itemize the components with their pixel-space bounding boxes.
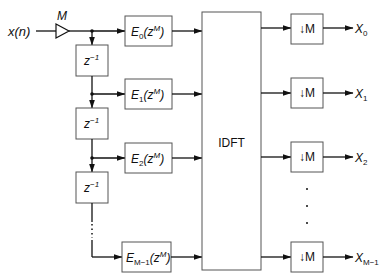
output-label-1: X1	[354, 87, 368, 103]
output-ellipsis-dot	[306, 188, 308, 190]
idft-label: IDFT	[218, 136, 245, 150]
filter-label-2: E2(zM)	[131, 151, 164, 168]
filter-label-1: E1(zM)	[131, 87, 164, 104]
output-label-0: X0	[354, 22, 368, 38]
decimator-label-1: ↓M	[299, 86, 315, 100]
decimator-label-0: ↓M	[299, 22, 315, 36]
output-ellipsis-dot	[306, 222, 308, 224]
output-label-3: XM−1	[354, 251, 379, 267]
output-label-2: X2	[354, 151, 368, 167]
gain-label: M	[57, 9, 67, 23]
filter-bank-diagram: x(n) M z−1 z−1 z−1 E0(zM) E1(zM) E2(zM) …	[0, 0, 381, 278]
decimator-label-2: ↓M	[299, 150, 315, 164]
output-ellipsis-dot	[306, 205, 308, 207]
gain-triangle-icon	[56, 24, 69, 38]
filter-label-0: E0(zM)	[131, 24, 164, 41]
input-label: x(n)	[7, 24, 30, 39]
decimator-label-3: ↓M	[299, 250, 315, 264]
